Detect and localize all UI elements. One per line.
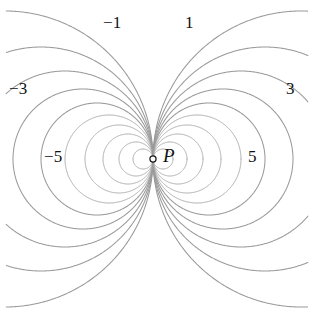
point-marker-P — [150, 156, 156, 162]
contour-curve--6 — [65, 115, 153, 203]
contour-label-neg-5: −5 — [44, 148, 63, 165]
contour-curve-1 — [153, 11, 307, 307]
contour-curve-3 — [153, 71, 308, 247]
contour-label-neg-1: −1 — [103, 14, 122, 31]
contour-curve-2 — [153, 47, 308, 271]
point-marker-group — [150, 156, 156, 162]
contour-curve--8 — [103, 134, 153, 184]
contour-curve--1 — [6, 159, 153, 307]
contour-curve-8 — [153, 134, 203, 184]
contour-curve--1 — [6, 11, 153, 159]
contour-label-pos-3: 3 — [286, 80, 295, 97]
contour-label-pos-1: 1 — [185, 14, 194, 31]
contour-curve--2 — [6, 47, 153, 159]
contour-diagram-figure: −1 1 −3 3 −5 5 P — [0, 0, 314, 316]
point-label-P: P — [163, 146, 175, 165]
contour-label-neg-3: −3 — [9, 80, 28, 97]
contour-curve--4 — [13, 89, 153, 229]
contour-curve--9 — [119, 142, 153, 176]
contour-curve--2 — [6, 159, 153, 271]
contour-label-pos-5: 5 — [248, 148, 257, 165]
